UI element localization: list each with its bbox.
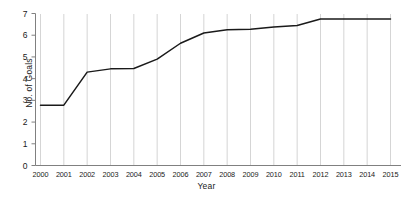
x-tick-label: 2004 [126, 170, 142, 179]
x-tick-label: 2014 [359, 170, 375, 179]
x-tick-label: 2006 [173, 170, 189, 179]
x-tick-label: 2001 [56, 170, 72, 179]
x-tick-label: 2012 [313, 170, 329, 179]
gridlines-group [41, 14, 391, 166]
y-tick-label: 5 [23, 52, 28, 62]
x-tick-label: 2003 [103, 170, 119, 179]
x-tick-label: 2015 [383, 170, 399, 179]
data-series-line [41, 19, 391, 105]
x-axis-label: Year [0, 181, 413, 191]
line-chart: No. of Goals 01234567 200020012002200320… [0, 0, 413, 198]
x-tick-label: 2008 [219, 170, 235, 179]
x-tick-label: 2005 [149, 170, 165, 179]
y-tick-label: 2 [23, 117, 28, 127]
x-tick-label: 2011 [290, 170, 305, 179]
y-tick-label: 0 [23, 161, 28, 171]
y-tick-label: 7 [23, 9, 28, 19]
x-tick-label: 2002 [79, 170, 95, 179]
x-tick-label: 2007 [196, 170, 212, 179]
x-tick-label: 2000 [33, 170, 49, 179]
y-tick-label: 4 [23, 74, 28, 84]
y-tick-label: 1 [23, 139, 28, 149]
plot-area: 01234567 2000200120022003200420052006200… [0, 0, 413, 198]
y-tick-label: 3 [23, 95, 28, 105]
y-axis-ticks-group: 01234567 [23, 9, 36, 171]
x-tick-label: 2013 [336, 170, 352, 179]
x-tick-label: 2009 [243, 170, 259, 179]
x-axis-ticks-group: 2000200120022003200420052006200720082009… [33, 170, 399, 179]
x-tick-label: 2010 [266, 170, 282, 179]
y-tick-label: 6 [23, 30, 28, 40]
